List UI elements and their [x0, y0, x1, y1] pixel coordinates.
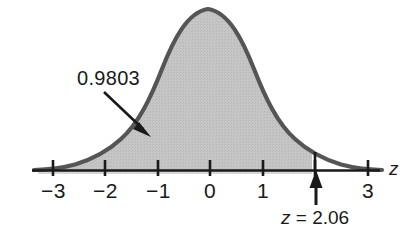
tick-label-neg3: −3: [41, 180, 66, 201]
normal-distribution-figure: −3 −2 −1 0 1 3 z 0.9803 z = 2.06: [0, 0, 420, 236]
z-value-label-equals: =: [291, 207, 313, 228]
tick-label-3: 3: [362, 180, 374, 201]
tick-label-1: 1: [257, 180, 269, 201]
z-value-label-variable: z: [281, 207, 291, 228]
tick-label-neg2: −2: [93, 180, 118, 201]
z-value-pointer-arrow: [310, 170, 323, 205]
axis-variable-label: z: [389, 159, 399, 178]
shaded-area-region: [38, 11, 312, 170]
z-value-label-number: 2.06: [312, 207, 349, 228]
area-probability-label: 0.9803: [77, 68, 140, 88]
z-value-label: z = 2.06: [281, 208, 349, 227]
tick-label-0: 0: [204, 180, 216, 201]
tick-label-neg1: −1: [146, 180, 171, 201]
